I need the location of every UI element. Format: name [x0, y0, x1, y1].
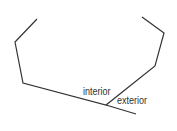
polygon-diagram — [0, 0, 177, 131]
exterior-angle-label: exterior — [117, 95, 147, 106]
extended-side-line — [106, 105, 136, 114]
interior-angle-label: interior — [83, 86, 111, 97]
